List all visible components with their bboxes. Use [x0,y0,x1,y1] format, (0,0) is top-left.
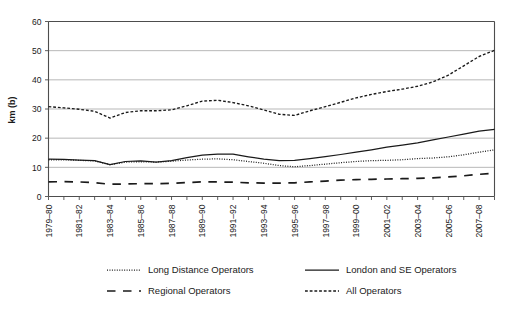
x-tick-label: 1983–84 [105,204,115,237]
x-tick-label: 1991–92 [228,204,238,237]
x-tick-label: 1995–96 [290,204,300,237]
x-tick-label: 2001–02 [382,204,392,237]
x-tick-label: 1981–82 [74,204,84,237]
chart-container: 0102030405060 1979–801981–821983–841985–… [0,0,512,314]
y-tick-label: 30 [32,104,42,114]
y-tick-label: 20 [32,133,42,143]
x-tick-label: 2003–04 [413,204,423,237]
x-tick-label: 1979–80 [44,204,54,237]
x-tick-label: 1987–88 [167,204,177,237]
legend-label: All Operators [346,285,402,296]
x-tick-label: 1997–98 [321,204,331,237]
x-tick-label: 1989–90 [197,204,207,237]
x-tick-label: 2005–06 [444,204,454,237]
y-tick-label: 0 [37,192,42,202]
x-tick-label: 1985–86 [136,204,146,237]
legend-label: Regional Operators [148,285,231,296]
legend-label: London and SE Operators [346,264,457,275]
y-axis-label: km (b) [7,96,17,123]
x-tick-label: 1999–00 [351,204,361,237]
y-tick-label: 60 [32,17,42,27]
x-tick-label: 1993–94 [259,204,269,237]
legend-label: Long Distance Operators [148,264,254,275]
y-tick-label: 10 [32,163,42,173]
x-tick-label: 2007–08 [474,204,484,237]
y-tick-label: 50 [32,46,42,56]
line-chart: 0102030405060 1979–801981–821983–841985–… [0,0,512,314]
y-tick-label: 40 [32,75,42,85]
